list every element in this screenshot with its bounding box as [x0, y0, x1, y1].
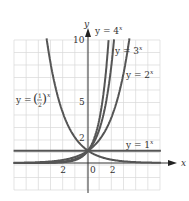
y-tick-label: 2 [79, 133, 85, 143]
label-1x: y = 1x [125, 138, 154, 150]
x-tick-label: 2 [60, 165, 66, 175]
x-axis-label: x [181, 158, 186, 168]
x-tick-label: 0 [90, 165, 96, 175]
label-half-x-prefix: y = [15, 95, 32, 105]
x-tick-label: 2 [110, 165, 116, 175]
x-axis-arrow-icon [168, 160, 177, 166]
y-tick-label: 10 [73, 35, 85, 45]
label-3x: y = 3x [114, 44, 143, 56]
curve-labels: y = 4x y = 3x y = 2x y = 1x y = ( 1 2 ) … [15, 24, 154, 150]
exponential-functions-chart: x y 2022510 y = 4x y = 3x y = 2x y = 1x … [0, 0, 189, 201]
grid [14, 40, 160, 190]
label-half-x: y = ( 1 2 ) x [15, 91, 51, 108]
y-axis-label: y [83, 19, 90, 29]
label-2x: y = 2x [125, 68, 154, 80]
y-tick-label: 5 [79, 97, 85, 107]
y-axis-arrow-icon [85, 28, 91, 37]
label-4x: y = 4x [94, 24, 123, 36]
